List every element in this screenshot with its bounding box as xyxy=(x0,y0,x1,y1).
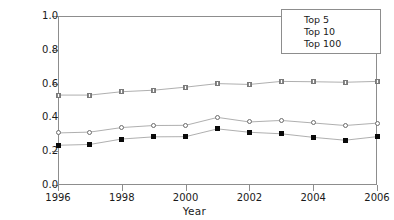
legend-item-top-10[interactable]: Top 10 xyxy=(288,26,375,37)
legend-marker-cell xyxy=(288,29,304,34)
x-tick-label: 2002 xyxy=(229,193,269,203)
x-tick-label: 1998 xyxy=(102,193,142,203)
legend-label: Top 10 xyxy=(304,26,335,37)
legend-label: Top 5 xyxy=(304,14,329,25)
y-tick-label: 0.8 xyxy=(18,45,58,55)
y-tick-label: 0.0 xyxy=(18,180,58,190)
legend-item-top-100[interactable]: Top 100 xyxy=(288,38,375,49)
x-tick-mark xyxy=(313,185,314,191)
x-tick-mark xyxy=(58,185,59,191)
y-tick-label: 0.2 xyxy=(18,146,58,156)
legend-marker-cell xyxy=(288,41,304,46)
x-tick-label: 2000 xyxy=(166,193,206,203)
y-tick-label: 0.4 xyxy=(18,112,58,122)
y-tick-label: 1.0 xyxy=(18,11,58,21)
x-tick-mark xyxy=(377,185,378,191)
x-tick-mark xyxy=(249,185,250,191)
hatched-square-icon xyxy=(294,41,299,46)
filled-square-icon xyxy=(294,17,299,22)
y-tick-label: 0.6 xyxy=(18,79,58,89)
x-axis-title: Year xyxy=(0,205,389,217)
x-tick-mark xyxy=(122,185,123,191)
open-circle-icon xyxy=(294,29,299,34)
chart-legend: Top 5Top 10Top 100 xyxy=(281,9,381,54)
x-tick-mark xyxy=(186,185,187,191)
x-tick-label: 1996 xyxy=(38,193,78,203)
legend-label: Top 100 xyxy=(304,38,341,49)
legend-marker-cell xyxy=(288,17,304,22)
legend-item-top-5[interactable]: Top 5 xyxy=(288,14,375,25)
x-tick-label: 2006 xyxy=(357,193,394,203)
x-tick-label: 2004 xyxy=(293,193,333,203)
